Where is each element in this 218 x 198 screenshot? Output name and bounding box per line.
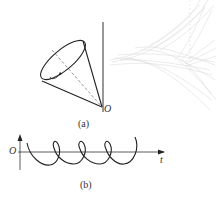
caption-a: (a) <box>78 119 89 129</box>
vertical-axis-arrow-icon <box>18 134 23 141</box>
wireframe-surface <box>110 0 216 110</box>
caption-b: (b) <box>80 180 92 190</box>
t-axis-label: t <box>160 155 163 165</box>
diagram-canvas <box>0 0 218 198</box>
origin-label-a: O <box>104 104 111 114</box>
origin-label-b: O <box>9 146 16 156</box>
cone <box>35 34 102 107</box>
loop-curve <box>27 137 137 165</box>
cone-axis <box>52 50 102 107</box>
